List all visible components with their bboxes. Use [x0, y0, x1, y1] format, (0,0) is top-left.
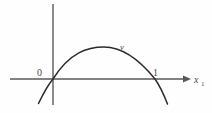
figure-container: 0 1 v x 1: [0, 0, 212, 113]
parabola-curve: [39, 47, 168, 104]
x-axis-arrow-icon: [183, 76, 191, 83]
x-axis-label-subscript: 1: [201, 80, 205, 88]
origin-label: 0: [37, 67, 42, 78]
parabola-plot: 0 1 v x 1: [0, 0, 212, 113]
x-tick-one-label: 1: [153, 67, 158, 78]
x-axis-label: x: [193, 74, 199, 85]
curve-name-label: v: [120, 42, 124, 52]
